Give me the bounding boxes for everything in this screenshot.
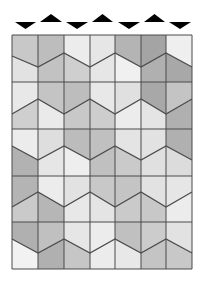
zigzag-tessellation-figure <box>0 0 208 284</box>
zigzag-grid <box>0 0 208 284</box>
